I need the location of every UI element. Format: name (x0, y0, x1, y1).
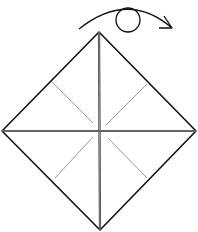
arrowhead-icon (159, 16, 172, 28)
turn-over-circle-icon (116, 8, 140, 32)
turn-over-arc (79, 9, 172, 29)
origami-diagram (0, 0, 198, 232)
